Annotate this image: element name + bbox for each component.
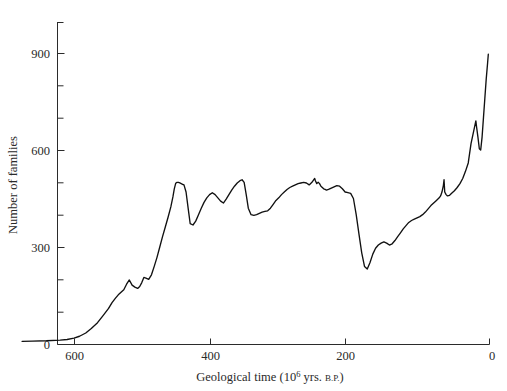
x-axis-title: Geological time (106 yrs. B.P.) xyxy=(196,369,344,384)
x-axis-major-ticks xyxy=(75,339,490,345)
x-axis-title-end: ) xyxy=(340,370,344,384)
y-axis-major-ticks xyxy=(58,54,65,345)
diversity-curve xyxy=(22,54,488,341)
x-axis-title-smallcaps: B.P. xyxy=(325,373,340,383)
line-chart: 0 300 600 900 600 400 200 0 Number of fa… xyxy=(0,0,507,391)
y-axis-minor-ticks xyxy=(58,23,64,313)
x-axis-title-mid: yrs. xyxy=(300,370,325,384)
y-tick-label-600: 600 xyxy=(31,144,50,158)
y-tick-label-300: 300 xyxy=(31,241,50,255)
figure-container: 0 300 600 900 600 400 200 0 Number of fa… xyxy=(0,0,507,391)
x-tick-label-200: 200 xyxy=(336,349,355,363)
x-tick-label-0: 0 xyxy=(489,349,495,363)
x-axis-title-main: Geological time (10 xyxy=(196,370,296,384)
y-tick-label-900: 900 xyxy=(31,47,50,61)
x-tick-label-600: 600 xyxy=(65,349,84,363)
x-tick-label-400: 400 xyxy=(201,349,220,363)
y-axis-title: Number of families xyxy=(6,136,20,234)
